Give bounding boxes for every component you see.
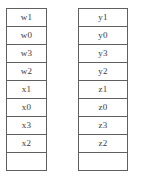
register-cell[interactable]: y3 [79, 45, 127, 63]
register-cell[interactable]: z2 [79, 135, 127, 153]
register-cell-label: z3 [99, 121, 108, 130]
register-cell[interactable]: z3 [79, 117, 127, 135]
register-cell-label: w1 [21, 13, 32, 22]
register-cell-label: y2 [98, 67, 107, 76]
register-cell[interactable]: z0 [79, 99, 127, 117]
register-cell-empty[interactable] [7, 153, 46, 171]
register-cell-label: z2 [99, 139, 108, 148]
register-cell-empty[interactable] [79, 153, 127, 171]
register-cell[interactable]: x2 [7, 135, 46, 153]
register-cell[interactable]: x1 [7, 81, 46, 99]
register-cell-label: z0 [99, 103, 108, 112]
register-cell[interactable]: z1 [79, 81, 127, 99]
register-cell-label: x1 [22, 85, 31, 94]
right-register-column: y1 y0 y3 y2 z1 z0 z3 z2 [78, 8, 128, 171]
register-cell[interactable]: y0 [79, 27, 127, 45]
register-cell-label: x2 [22, 139, 31, 148]
register-cell-label: x0 [22, 103, 31, 112]
left-register-column: w1 w0 w3 w2 x1 x0 x3 x2 [6, 8, 47, 171]
register-cell-label: y3 [98, 49, 107, 58]
register-cell[interactable]: w2 [7, 63, 46, 81]
register-cell[interactable]: w3 [7, 45, 46, 63]
register-cell[interactable]: w0 [7, 27, 46, 45]
register-cell-label: y1 [98, 13, 107, 22]
register-cell-label: y0 [98, 31, 107, 40]
register-cell-label: z1 [99, 85, 108, 94]
register-cell-label: w0 [21, 31, 32, 40]
register-cell[interactable]: x0 [7, 99, 46, 117]
register-stack-diagram: w1 w0 w3 w2 x1 x0 x3 x2 y1 y0 [0, 0, 149, 184]
register-cell[interactable]: y2 [79, 63, 127, 81]
register-cell[interactable]: y1 [79, 9, 127, 27]
register-cell-label: x3 [22, 121, 31, 130]
register-cell-label: w3 [21, 49, 32, 58]
register-cell[interactable]: w1 [7, 9, 46, 27]
register-cell[interactable]: x3 [7, 117, 46, 135]
register-cell-label: w2 [21, 67, 32, 76]
